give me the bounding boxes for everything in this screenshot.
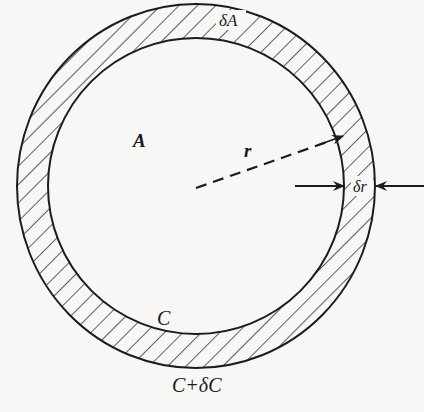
label-perimeter-c-plus-delta-c: C+δC [172, 374, 222, 396]
annulus-diagram: δA A r δr C C+δC [0, 0, 424, 412]
label-perimeter-c: C [157, 307, 171, 329]
label-delta-r: δr [353, 178, 367, 195]
label-delta-a: δA [219, 11, 238, 30]
hatched-ring [0, 0, 424, 412]
label-radius-r: r [244, 140, 252, 161]
label-area-a: A [132, 130, 146, 151]
